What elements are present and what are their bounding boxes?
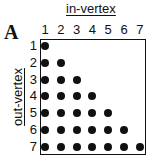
matrix-dot bbox=[57, 126, 65, 134]
matrix-dot bbox=[57, 109, 65, 117]
column-label: 2 bbox=[55, 23, 67, 37]
matrix-dot bbox=[73, 76, 81, 84]
matrix-dot bbox=[120, 126, 128, 134]
matrix-dot bbox=[120, 143, 128, 151]
y-axis-label: out-vertex bbox=[11, 57, 25, 137]
matrix-dot bbox=[57, 143, 65, 151]
matrix-dot bbox=[104, 143, 112, 151]
matrix-dot bbox=[41, 42, 49, 50]
column-label: 5 bbox=[102, 23, 114, 37]
column-label: 7 bbox=[134, 23, 146, 37]
matrix-dot bbox=[41, 59, 49, 67]
matrix-dot bbox=[41, 143, 49, 151]
row-label: 6 bbox=[27, 123, 37, 137]
panel-letter: A bbox=[4, 22, 18, 42]
column-label: 1 bbox=[39, 23, 51, 37]
column-label: 3 bbox=[71, 23, 83, 37]
matrix-dot bbox=[73, 92, 81, 100]
x-axis-label: in-vertex bbox=[66, 2, 116, 16]
matrix-dot bbox=[73, 126, 81, 134]
matrix-dot bbox=[57, 76, 65, 84]
row-label: 3 bbox=[27, 73, 37, 87]
column-label: 4 bbox=[86, 23, 98, 37]
row-label: 2 bbox=[27, 56, 37, 70]
matrix-dot bbox=[41, 126, 49, 134]
matrix-dot bbox=[73, 109, 81, 117]
row-label: 4 bbox=[27, 89, 37, 103]
row-label: 1 bbox=[27, 39, 37, 53]
column-label: 6 bbox=[118, 23, 130, 37]
matrix-dot bbox=[73, 143, 81, 151]
matrix-dot bbox=[136, 143, 144, 151]
row-label: 7 bbox=[27, 140, 37, 154]
matrix-dot bbox=[41, 76, 49, 84]
matrix-dot bbox=[57, 59, 65, 67]
row-label: 5 bbox=[27, 106, 37, 120]
